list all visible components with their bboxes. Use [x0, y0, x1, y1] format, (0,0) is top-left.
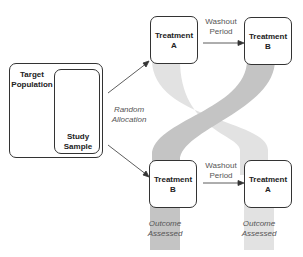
random-allocation-label: RandomAllocation: [104, 105, 154, 125]
washout-label-bottom: WashoutPeriod: [198, 161, 244, 181]
washout-label-top: WashoutPeriod: [198, 17, 244, 37]
outcome-assessed-label-right: OutcomeAssessed: [240, 219, 278, 239]
treatment-a-label-period2: TreatmentA: [244, 175, 292, 195]
target-population-label: TargetPopulation: [10, 70, 54, 90]
arrow-to-treatment-a: [108, 63, 147, 93]
treatment-a-label-period1: TreatmentA: [150, 31, 198, 51]
arrow-to-treatment-b: [108, 145, 147, 175]
study-sample-label: StudySample: [56, 132, 100, 152]
outcome-assessed-label-left: OutcomeAssessed: [146, 219, 184, 239]
treatment-b-label-period1: TreatmentB: [149, 175, 197, 195]
treatment-b-label-period2: TreatmentB: [244, 32, 292, 52]
